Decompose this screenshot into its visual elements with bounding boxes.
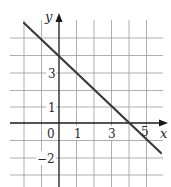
x-tick-3: 3 [108,127,116,141]
grid [10,20,163,187]
y-tick-3: 3 [48,67,56,81]
y-tick-1: 1 [48,101,56,115]
labels: y x 3 1 −2 0 1 3 5 [36,9,168,166]
x-axis-label: x [160,126,168,141]
x-tick-5: 5 [141,125,149,139]
y-tick-minus-2: −2 [37,152,55,166]
y-axis-arrow-icon [56,13,63,22]
y-axis-label: y [44,9,53,24]
origin-label: 0 [47,127,55,141]
axes [10,13,168,187]
x-tick-1: 1 [74,127,82,141]
coordinate-graph: y x 3 1 −2 0 1 3 5 [0,0,171,187]
